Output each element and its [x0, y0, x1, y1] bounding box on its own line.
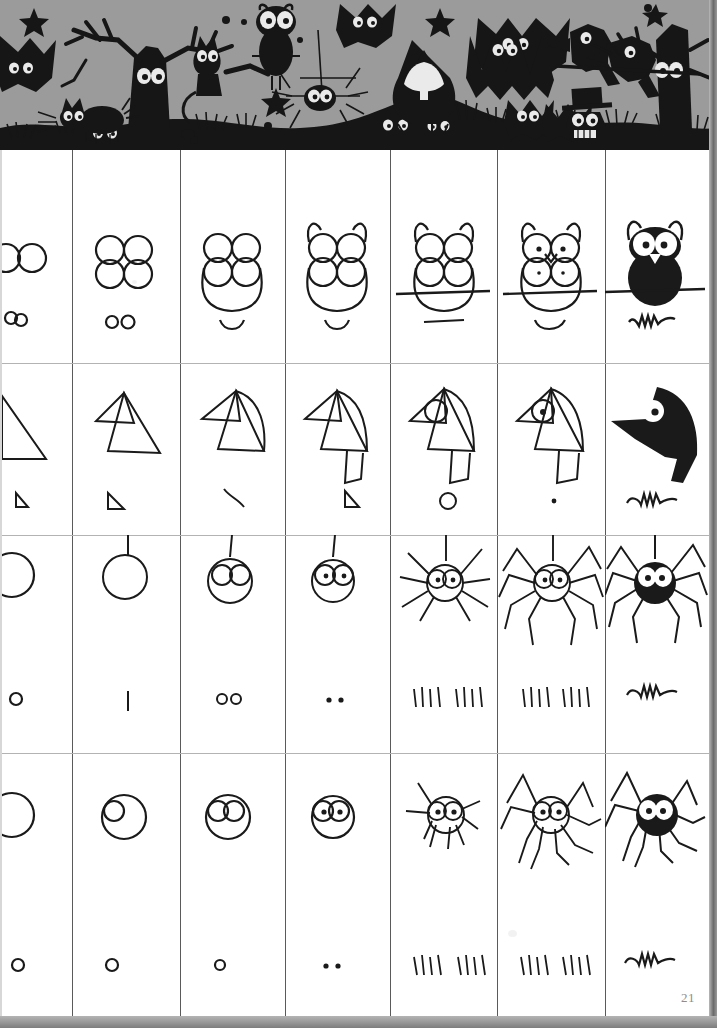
hanging-spider-step-6 — [497, 535, 605, 753]
crow-step-7 — [605, 363, 709, 535]
owl-step-5 — [390, 150, 497, 363]
walking-spider-step-1 — [0, 753, 72, 1020]
hanging-spider-step-5 — [390, 535, 497, 753]
walking-spider-step-2 — [72, 753, 180, 1020]
walking-spider-step-4 — [285, 753, 390, 1020]
scan-smudge — [508, 930, 517, 937]
step-grid — [0, 150, 717, 1020]
crow-step-4 — [285, 363, 390, 535]
crow-step-6 — [497, 363, 605, 535]
walking-spider-step-6 — [497, 753, 605, 1020]
hanging-spider-step-4 — [285, 535, 390, 753]
walking-spider-step-3 — [180, 753, 285, 1020]
walking-spider-step-7 — [605, 753, 709, 1020]
crow-step-3 — [180, 363, 285, 535]
hanging-spider-step-7 — [605, 535, 709, 753]
owl-step-3 — [180, 150, 285, 363]
crow-step-2 — [72, 363, 180, 535]
scan-smudge — [132, 280, 137, 284]
hanging-spider-step-1 — [0, 535, 72, 753]
page-left-edge — [0, 150, 2, 1020]
hanging-spider-step-2 — [72, 535, 180, 753]
owl-step-7 — [605, 150, 709, 363]
owl-step-6 — [497, 150, 605, 363]
page-right-edge — [709, 0, 717, 1028]
walking-spider-step-5 — [390, 753, 497, 1020]
crow-step-5 — [390, 363, 497, 535]
owl-step-1 — [0, 150, 72, 363]
halloween-silhouette-band — [0, 0, 717, 150]
hanging-spider-step-3 — [180, 535, 285, 753]
crow-step-1 — [0, 363, 72, 535]
page-bottom-edge — [0, 1016, 717, 1028]
owl-step-2 — [72, 150, 180, 363]
page-number: 21 — [681, 990, 695, 1006]
tutorial-page: 21 — [0, 0, 717, 1028]
owl-step-4 — [285, 150, 390, 363]
